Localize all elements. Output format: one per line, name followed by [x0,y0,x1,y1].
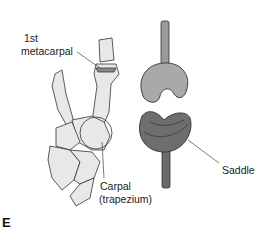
metacarpal-label-line1: 1st [24,32,38,44]
lower-saddle-model [139,112,191,188]
saddle-label: Saddle [222,164,255,176]
metacarpal-label-line2: metacarpal [21,45,73,57]
upper-saddle-model [141,21,188,102]
carpal-label-line2: (trapezium) [99,193,152,205]
carpal-label-line1: Carpal [100,180,131,192]
panel-letter: E [2,215,11,230]
